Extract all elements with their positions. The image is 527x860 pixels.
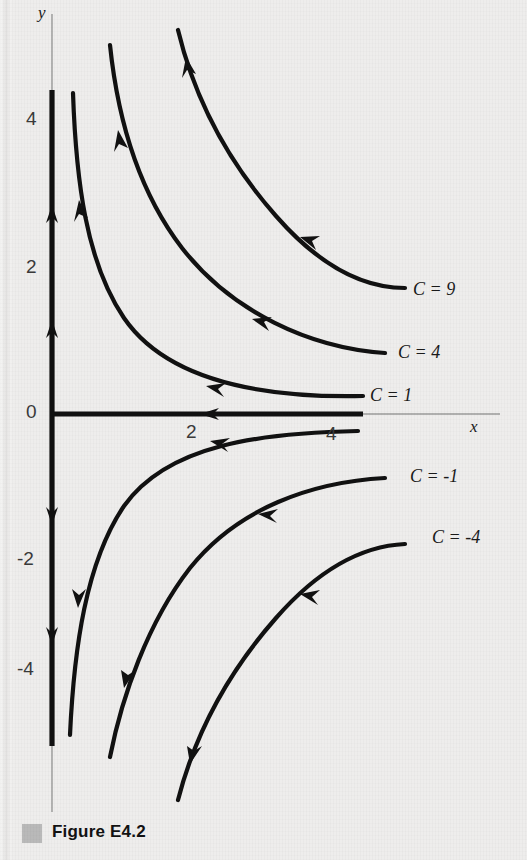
curve-c-4: [110, 45, 385, 353]
y-tick-label-minus-2: -2: [17, 548, 34, 570]
curve-label-c-1: C = 1: [370, 385, 412, 406]
y-tick-label-4: 4: [26, 108, 37, 130]
arrow-curve-c-1-lower: [206, 383, 226, 397]
curve-c-9: [178, 30, 405, 288]
plot-canvas: .thin-axis { stroke:#9a9a9a; stroke-widt…: [0, 0, 527, 860]
y-tick-label-0: 0: [26, 401, 37, 423]
y-axis-label: y: [38, 3, 46, 23]
curve-label-c-9: C = 9: [413, 279, 455, 300]
arrow-curve-c-9-upper: [182, 57, 196, 78]
curve-label-c-minus-9: C = -4: [432, 527, 480, 548]
y-tick-label-minus-4: -4: [17, 658, 34, 680]
curve-c-minus-9: [178, 544, 405, 800]
figure-caption: Figure E4.2: [52, 822, 146, 842]
x-tick-label-2: 2: [186, 421, 197, 443]
caption-marker-icon: [22, 824, 42, 843]
y-tick-label-2: 2: [26, 256, 37, 278]
curve-c-minus-4: [110, 478, 385, 757]
x-tick-label-4: 4: [326, 423, 337, 445]
x-axis-label: x: [470, 417, 478, 437]
curve-label-c-minus-4: C = -1: [410, 466, 458, 487]
curve-label-c-4: C = 4: [398, 342, 440, 363]
figure-page: .thin-axis { stroke:#9a9a9a; stroke-widt…: [0, 0, 527, 860]
